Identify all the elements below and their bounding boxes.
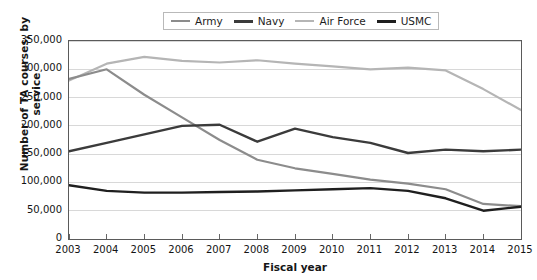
x-tick-label: 2014 <box>462 245 502 255</box>
x-tick-label: 2005 <box>123 245 163 255</box>
y-tick-label: 50,000 <box>0 205 62 215</box>
series-layer <box>69 57 521 211</box>
chart-legend: Army Navy Air Force USMC <box>163 12 439 30</box>
legend-label-army: Army <box>195 16 223 27</box>
x-tick-label: 2012 <box>387 245 427 255</box>
series-line-air-force <box>69 57 521 110</box>
plot-area <box>68 40 522 240</box>
x-tick-label: 2007 <box>199 245 239 255</box>
x-tick-label: 2006 <box>161 245 201 255</box>
legend-label-usmc: USMC <box>401 16 432 27</box>
x-tick-label: 2003 <box>48 245 88 255</box>
legend-item-navy[interactable]: Navy <box>234 16 285 27</box>
x-tick-label: 2009 <box>274 245 314 255</box>
x-tick-label: 2013 <box>425 245 465 255</box>
legend-item-usmc[interactable]: USMC <box>377 16 432 27</box>
legend-item-air-force[interactable]: Air Force <box>295 16 365 27</box>
x-tick-label: 2010 <box>312 245 352 255</box>
legend-item-army[interactable]: Army <box>171 16 223 27</box>
legend-swatch-army <box>171 20 190 22</box>
x-tick-label: 2011 <box>349 245 389 255</box>
legend-swatch-navy <box>234 20 253 23</box>
x-tick-label: 2008 <box>236 245 276 255</box>
series-line-usmc <box>69 185 521 210</box>
plot-svg <box>69 41 521 239</box>
y-tick-label: 0 <box>0 233 62 243</box>
legend-label-air-force: Air Force <box>319 16 365 27</box>
x-axis-title: Fiscal year <box>60 261 530 273</box>
series-line-army <box>69 69 521 206</box>
legend-swatch-usmc <box>377 20 396 23</box>
y-axis-title: Number of TA courses, by service <box>18 0 42 194</box>
gridlines <box>69 41 521 211</box>
series-line-navy <box>69 125 521 153</box>
x-tick-marks <box>69 234 521 239</box>
x-tick-label: 2015 <box>500 245 537 255</box>
x-tick-label: 2004 <box>86 245 126 255</box>
legend-label-navy: Navy <box>258 16 285 27</box>
legend-swatch-air-force <box>295 20 314 22</box>
